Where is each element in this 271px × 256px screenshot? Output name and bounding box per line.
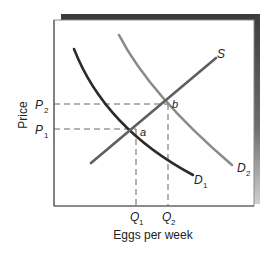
svg-text:1: 1 xyxy=(139,218,144,227)
svg-text:2: 2 xyxy=(246,169,251,178)
y-tick-p1: P 1 xyxy=(35,123,49,140)
svg-text:1: 1 xyxy=(44,131,49,140)
y-tick-p2: P 2 xyxy=(35,98,49,115)
svg-text:Q: Q xyxy=(130,210,139,224)
svg-text:D: D xyxy=(237,161,246,175)
equilibrium-point-b: b xyxy=(172,98,178,110)
supply-label: S xyxy=(217,47,225,61)
svg-text:P: P xyxy=(35,98,43,112)
svg-text:2: 2 xyxy=(171,218,176,227)
x-tick-q2: Q 2 xyxy=(162,210,176,227)
svg-text:P: P xyxy=(35,123,43,137)
svg-text:Q: Q xyxy=(162,210,171,224)
svg-text:1: 1 xyxy=(203,181,208,190)
equilibrium-point-a: a xyxy=(140,126,146,138)
svg-text:D: D xyxy=(194,173,203,187)
x-axis-title: Eggs per week xyxy=(113,228,193,242)
y-axis-title: Price xyxy=(16,101,30,129)
svg-text:2: 2 xyxy=(44,106,49,115)
x-tick-q1: Q 1 xyxy=(130,210,144,227)
supply-demand-chart: S D 1 D 2 a b P 2 P 1 Q 1 Q 2 Eggs per w… xyxy=(0,0,271,256)
